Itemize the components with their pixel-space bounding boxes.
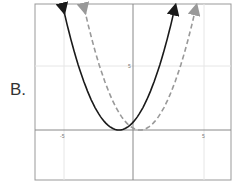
parabola-chart: -5 5 5 — [0, 0, 237, 186]
x-tick-neg5: -5 — [60, 133, 65, 139]
y-tick-5: 5 — [128, 63, 131, 69]
x-tick-5: 5 — [202, 133, 205, 139]
